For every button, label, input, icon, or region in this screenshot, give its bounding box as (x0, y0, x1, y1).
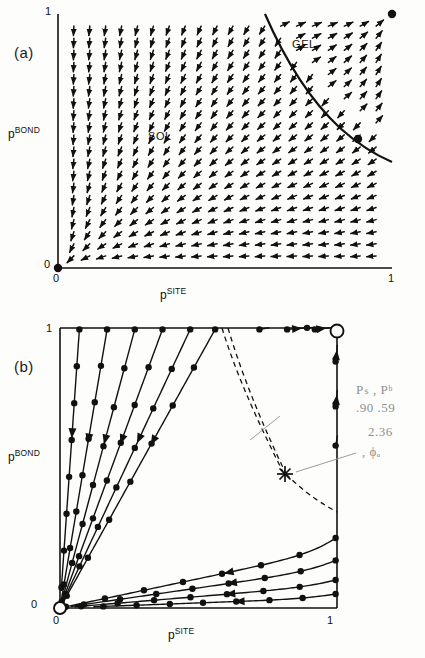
flow-arrow (228, 74, 233, 82)
panel-b-streamlines (61, 328, 337, 607)
flow-arrow (259, 38, 264, 46)
flow-arrow (351, 195, 360, 199)
streamline-point (79, 472, 85, 478)
flow-arrow (304, 183, 313, 187)
flow-arrow (322, 99, 328, 106)
streamline-point (100, 443, 106, 449)
streamline-point (90, 515, 96, 521)
flow-arrow (73, 38, 74, 47)
flow-arrow (287, 256, 296, 257)
flow-arrow (195, 135, 201, 142)
flow-arrow (119, 123, 122, 132)
flow-arrow (305, 147, 313, 152)
flow-arrow (353, 147, 361, 153)
flow-arrow (213, 38, 217, 46)
streamline-point (189, 586, 195, 592)
streamline-arrowhead (68, 428, 77, 439)
panel-b-separatrix-dashed (222, 328, 337, 512)
flow-arrow (226, 135, 233, 142)
flow-arrow (328, 45, 336, 50)
flow-arrow (271, 256, 280, 257)
streamline-point (284, 326, 290, 332)
flow-arrow (194, 159, 201, 166)
streamline-arrowhead (133, 433, 144, 445)
flow-arrow (72, 208, 74, 217)
flow-arrow (165, 87, 169, 96)
flow-arrow (166, 38, 169, 47)
flow-arrow (196, 74, 201, 82)
flow-arrow (194, 183, 202, 189)
streamline-point (104, 326, 110, 332)
flow-arrow (335, 256, 344, 257)
flow-arrow (272, 220, 281, 223)
flow-arrow (352, 183, 361, 187)
flow-arrow (212, 99, 218, 107)
flow-arrow (337, 147, 345, 153)
panel-a-fixed-point-critical (354, 135, 362, 143)
streamline-point (151, 597, 157, 603)
flow-arrow (192, 244, 201, 246)
flow-arrow (367, 232, 376, 234)
flow-arrow (320, 171, 328, 176)
flow-arrow (213, 26, 217, 34)
streamline-point (180, 579, 186, 585)
flow-arrow (289, 123, 296, 129)
flow-arrow (360, 67, 366, 74)
flow-arrow (197, 38, 201, 47)
flow-arrow (241, 183, 249, 188)
flow-arrow (100, 220, 106, 228)
flow-arrow (178, 195, 186, 201)
flow-arrow (259, 50, 265, 58)
flow-arrow (244, 50, 249, 58)
flow-arrow (297, 22, 306, 26)
flow-arrow (195, 147, 201, 154)
flow-arrow (272, 208, 281, 211)
streamline-point (85, 555, 91, 561)
flow-arrow (135, 87, 138, 96)
flow-arrow (226, 159, 233, 165)
streamline-point (332, 557, 338, 563)
streamline-point (332, 591, 338, 597)
streamline-point (76, 326, 82, 332)
flow-arrow (281, 22, 290, 26)
flow-arrow (255, 256, 264, 257)
flow-arrow (338, 111, 345, 118)
flow-arrow (73, 123, 74, 132)
flow-arrow (239, 244, 248, 246)
panel-a-fixed-point-sol (54, 264, 62, 272)
flow-arrow (344, 92, 351, 98)
flow-arrow (131, 208, 138, 215)
streamline-arrowhead (292, 324, 303, 333)
flow-arrow (148, 171, 154, 179)
flow-arrow (89, 87, 90, 96)
flow-arrow (306, 99, 313, 106)
flow-arrow (196, 99, 201, 107)
flow-arrow (149, 111, 153, 120)
flow-arrow (319, 244, 328, 245)
flow-arrow (73, 183, 74, 192)
flow-arrow (376, 116, 382, 123)
flow-arrow (119, 111, 122, 120)
flow-arrow (134, 135, 138, 144)
flow-arrow (272, 183, 280, 187)
panel-a-plot (0, 0, 425, 320)
flow-arrow (312, 22, 321, 26)
flow-arrow (210, 159, 217, 165)
flow-arrow (258, 111, 265, 118)
flow-arrow (256, 220, 265, 223)
flow-arrow (272, 171, 280, 176)
flow-arrow (211, 135, 217, 142)
flow-arrow (259, 62, 265, 70)
flow-arrow (193, 208, 201, 213)
streamline-point (296, 552, 302, 558)
flow-arrow (148, 159, 153, 167)
flow-arrow (256, 232, 265, 234)
flow-arrow (89, 74, 90, 83)
streamline-point (169, 366, 175, 372)
flow-arrow (194, 171, 201, 177)
flow-arrow (117, 171, 121, 180)
flow-arrow (351, 244, 360, 245)
flow-arrow (240, 208, 249, 212)
flow-arrow (244, 38, 249, 46)
flow-arrow (319, 256, 328, 257)
